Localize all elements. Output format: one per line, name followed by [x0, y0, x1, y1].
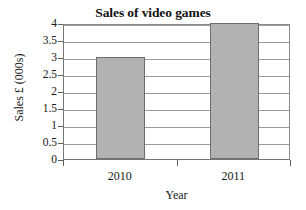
bar-chart: Sales of video games Sales £ (000s) Year… [0, 0, 306, 210]
y-axis-tick-label: 1 [51, 120, 57, 131]
x-axis-tick-mark [63, 160, 64, 166]
y-axis-tick-label: 2.5 [43, 69, 57, 80]
y-axis-tick-label: 0.5 [43, 137, 57, 148]
bar-2010 [96, 57, 145, 159]
y-axis-tick-label: 4 [51, 18, 57, 29]
y-axis-tick-label: 0 [51, 154, 57, 165]
bar-2011 [210, 23, 259, 159]
y-axis-tick-mark [58, 58, 63, 59]
y-axis-tick-mark [58, 126, 63, 127]
y-axis-title: Sales £ (000s) [12, 23, 27, 153]
y-axis-tick-mark [58, 24, 63, 25]
y-axis-tick-mark [58, 75, 63, 76]
chart-title: Sales of video games [0, 5, 306, 21]
y-axis-tick-label: 3 [51, 52, 57, 63]
y-axis-tick-mark [58, 92, 63, 93]
x-axis-tick-label: 2010 [63, 169, 177, 184]
y-axis-tick-mark [58, 143, 63, 144]
x-axis-title: Year [63, 188, 290, 203]
plot-area [63, 24, 290, 160]
x-axis-tick-mark [177, 160, 178, 166]
y-axis-tick-mark [58, 41, 63, 42]
y-axis-tick-label: 3.5 [43, 35, 57, 46]
y-axis-tick-label: 1.5 [43, 103, 57, 114]
x-axis-tick-label: 2011 [177, 169, 291, 184]
x-axis-tick-mark [290, 160, 291, 166]
y-axis-tick-mark [58, 109, 63, 110]
y-axis-tick-label: 2 [51, 86, 57, 97]
